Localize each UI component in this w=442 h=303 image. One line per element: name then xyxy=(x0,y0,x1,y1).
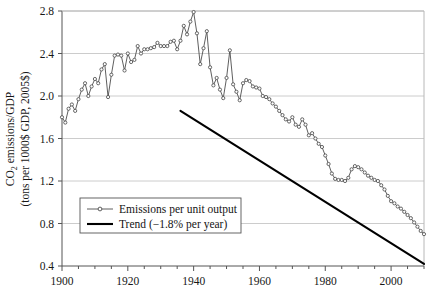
data-point xyxy=(172,39,175,42)
data-point xyxy=(169,40,172,43)
data-point xyxy=(195,32,198,35)
data-point xyxy=(287,120,290,123)
y-axis-title-line1: CO2 emissions/GDP xyxy=(4,92,19,186)
data-point xyxy=(389,200,392,203)
data-point xyxy=(208,66,211,69)
data-point xyxy=(343,179,346,182)
y-tick-label-2.0: 2.0 xyxy=(40,90,55,102)
data-point xyxy=(136,44,139,47)
data-point xyxy=(264,95,267,98)
data-point xyxy=(350,168,353,171)
data-point xyxy=(422,233,425,236)
data-point xyxy=(284,118,287,121)
data-point xyxy=(159,44,162,47)
data-point xyxy=(281,114,284,117)
data-point xyxy=(133,58,136,61)
data-point xyxy=(324,154,327,157)
data-point xyxy=(327,162,330,165)
data-point xyxy=(294,123,297,126)
data-point xyxy=(176,48,179,51)
data-point xyxy=(90,85,93,88)
data-point xyxy=(241,82,244,85)
data-point xyxy=(100,68,103,71)
data-point xyxy=(366,174,369,177)
data-point xyxy=(202,47,205,50)
data-point xyxy=(255,86,258,89)
data-point xyxy=(301,118,304,121)
data-point xyxy=(153,46,156,49)
data-point xyxy=(320,145,323,148)
data-point xyxy=(248,80,251,83)
data-point xyxy=(258,87,261,90)
data-point xyxy=(271,102,274,105)
data-point xyxy=(83,82,86,85)
data-point xyxy=(146,48,149,51)
data-point xyxy=(383,188,386,191)
data-point xyxy=(218,88,221,91)
data-point xyxy=(238,99,241,102)
y-tick-label-2.8: 2.8 xyxy=(40,5,55,17)
data-point xyxy=(120,54,123,57)
y-axis-ticks: 0.40.81.21.62.02.42.8 xyxy=(40,5,62,272)
data-point xyxy=(199,63,202,66)
data-point xyxy=(130,60,133,63)
data-point xyxy=(357,166,360,169)
data-point xyxy=(370,176,373,179)
data-point xyxy=(340,178,343,181)
data-point xyxy=(274,105,277,108)
data-point xyxy=(416,225,419,228)
data-point xyxy=(166,44,169,47)
data-point xyxy=(245,78,248,81)
data-point xyxy=(307,134,310,137)
y-axis-title: CO2 emissions/GDP (tons per 1000$ GDP, 2… xyxy=(4,71,32,206)
data-point xyxy=(103,63,106,66)
data-point xyxy=(314,137,317,140)
data-point xyxy=(278,109,281,112)
data-point xyxy=(393,202,396,205)
data-point xyxy=(156,41,159,44)
data-point xyxy=(330,172,333,175)
legend-label-emissions: Emissions per unit output xyxy=(119,203,238,216)
y-tick-label-2.4: 2.4 xyxy=(40,48,55,60)
co2-emissions-intensity-chart: 0.40.81.21.62.02.42.8 190019201940196019… xyxy=(0,0,442,303)
data-point xyxy=(64,121,67,124)
data-point xyxy=(409,217,412,220)
data-point xyxy=(251,85,254,88)
legend-label-trend: Trend (−1.8% per year) xyxy=(119,218,227,231)
data-point xyxy=(60,116,63,119)
data-point xyxy=(116,53,119,56)
y-tick-label-0.4: 0.4 xyxy=(40,260,55,272)
data-point xyxy=(399,207,402,210)
data-point xyxy=(215,76,218,79)
data-point xyxy=(113,54,116,57)
data-point xyxy=(373,178,376,181)
data-point xyxy=(380,184,383,187)
data-point xyxy=(162,44,165,47)
chart-legend: Emissions per unit output Trend (−1.8% p… xyxy=(80,198,241,233)
data-point xyxy=(143,48,146,51)
x-axis-ticks: 190019201940196019802000 xyxy=(51,266,425,287)
y-tick-label-1.6: 1.6 xyxy=(40,133,55,145)
data-point xyxy=(311,132,314,135)
data-point xyxy=(70,103,73,106)
data-point xyxy=(185,33,188,36)
y-axis-title-co2: CO xyxy=(4,170,16,186)
data-point xyxy=(192,10,195,13)
data-point xyxy=(182,24,185,27)
legend-marker-circle-emissions xyxy=(98,207,102,211)
data-point xyxy=(376,179,379,182)
data-point xyxy=(123,69,126,72)
data-point xyxy=(268,98,271,101)
data-point xyxy=(291,116,294,119)
data-point xyxy=(413,221,416,224)
data-point xyxy=(179,39,182,42)
data-point xyxy=(235,90,238,93)
data-point xyxy=(93,77,96,80)
data-point xyxy=(110,73,113,76)
data-point xyxy=(106,95,109,98)
data-point xyxy=(212,84,215,87)
chart-figure: 0.40.81.21.62.02.42.8 190019201940196019… xyxy=(0,0,442,303)
data-point xyxy=(334,177,337,180)
data-point xyxy=(261,94,264,97)
data-point xyxy=(297,125,300,128)
